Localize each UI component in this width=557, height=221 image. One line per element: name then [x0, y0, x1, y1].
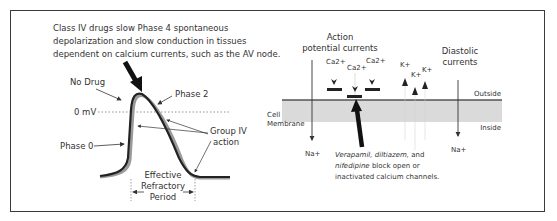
erp-label-line1: Effective [144, 170, 181, 180]
calcium-channel-3 [365, 79, 380, 91]
cell-membrane-band [282, 100, 502, 122]
na-label-2: Na+ [451, 146, 467, 154]
phase-0-arrow [94, 144, 124, 146]
phase-2-arrow [158, 96, 172, 104]
note-line-1: Verapamil, diltiazem, and [335, 151, 425, 159]
erp-label-line3: Period [150, 192, 177, 202]
erp-label-line2: Refractory [141, 181, 185, 191]
phase-0-label: Phase 0 [60, 141, 94, 151]
caption-line-3: dependent on calcium currents, such as t… [53, 49, 280, 59]
k-label-2: K+ [411, 71, 422, 79]
action-potential-label-line2: potential currents [302, 43, 378, 53]
zero-mv-label: 0 mV [74, 107, 96, 117]
phase-2-label: Phase 2 [175, 89, 209, 99]
k-label-3: K+ [422, 66, 433, 74]
diastolic-label-line2: currents [442, 57, 478, 67]
note-line-3: inactivated calcium channels. [335, 173, 439, 181]
group-iv-label-line2: action [213, 137, 239, 147]
class-iv-antiarrhythmic-figure: Class IV drugs slow Phase 4 spontaneous … [0, 0, 557, 221]
caption-line-2: depolarization and slow conduction in ti… [53, 36, 247, 46]
calcium-channel-1 [327, 79, 342, 91]
inside-label: Inside [480, 124, 501, 132]
big-arrow-icon [125, 62, 142, 92]
ca-label-3: Ca2+ [366, 57, 386, 65]
left-panel: Class IV drugs slow Phase 4 spontaneous … [53, 23, 280, 202]
action-potential-label-line1: Action [327, 32, 354, 42]
k-label-1: K+ [400, 61, 411, 69]
na-label-1: Na+ [305, 150, 321, 158]
diagram-canvas: Class IV drugs slow Phase 4 spontaneous … [0, 0, 557, 221]
drug-action-potential-curve [100, 95, 230, 178]
caption-line-1: Class IV drugs slow Phase 4 spontaneous [53, 23, 229, 33]
outside-label: Outside [474, 90, 501, 98]
diastolic-label-line1: Diastolic [442, 46, 479, 56]
cell-membrane-label-line2: Membrane [267, 120, 305, 128]
group-iv-label-line1: Group IV [210, 126, 247, 136]
ca-label-1: Ca2+ [326, 58, 346, 66]
no-drug-label: No Drug [70, 77, 105, 87]
calcium-channel-2 [347, 73, 362, 98]
ca-label-2: Ca2+ [347, 64, 367, 72]
cell-membrane-label-line1: Cell [267, 111, 280, 119]
note-line-2: nifedipine block open or [335, 162, 420, 170]
no-drug-arrow [96, 89, 121, 100]
right-panel: Action potential currents Diastolic curr… [267, 32, 502, 181]
